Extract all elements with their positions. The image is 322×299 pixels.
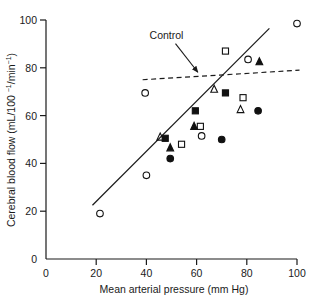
data-point-filled-circle	[218, 136, 225, 143]
data-point-filled-circle	[255, 108, 262, 115]
data-point-filled-triangle	[167, 144, 174, 151]
data-point-open-triangle	[237, 106, 244, 113]
y-tick-label-20: 20	[25, 205, 37, 217]
x-tick-label-60: 60	[191, 267, 203, 279]
data-point-open-circle	[143, 172, 150, 179]
y-tick-label-0: 0	[31, 253, 37, 265]
x-tick-label-80: 80	[241, 267, 253, 279]
x-tick-label-20: 20	[90, 267, 102, 279]
data-point-open-circle	[97, 210, 104, 217]
data-point-open-circle	[142, 90, 149, 97]
series-open-triangle	[157, 85, 244, 140]
scatter-plot-svg: 100 80 60 40 20 0 0 20 40 60 80 100 Mean…	[0, 0, 322, 299]
data-point-filled-circle	[167, 155, 174, 162]
regression-line	[92, 28, 269, 205]
y-axis-ticks	[40, 20, 46, 211]
x-axis-ticks	[96, 259, 297, 265]
data-point-filled-square	[192, 108, 198, 114]
data-point-filled-triangle	[256, 58, 263, 65]
trend-lines-layer	[92, 28, 299, 205]
control-label: Control	[150, 29, 184, 41]
series-filled-circle	[167, 108, 261, 162]
y-axis-tick-labels: 100 80 60 40 20 0	[19, 14, 37, 265]
series-filled-square	[162, 90, 228, 142]
data-point-open-square	[240, 95, 246, 101]
y-axis-title-close: )	[5, 53, 17, 57]
y-tick-label-100: 100	[19, 14, 37, 26]
x-tick-label-0: 0	[43, 267, 49, 279]
series-filled-triangle	[167, 58, 263, 151]
data-markers-layer	[97, 20, 301, 217]
chart-figure: 100 80 60 40 20 0 0 20 40 60 80 100 Mean…	[0, 0, 322, 299]
data-point-filled-triangle	[191, 122, 198, 129]
y-tick-label-60: 60	[25, 110, 37, 122]
axes	[46, 20, 297, 259]
data-point-open-circle	[294, 20, 301, 27]
data-point-open-circle	[198, 133, 205, 140]
data-point-open-circle	[245, 56, 252, 63]
y-axis-title-sup1: −1	[5, 84, 12, 92]
control-arrow	[175, 44, 197, 73]
x-axis-title: Mean arterial pressure (mm Hg)	[100, 283, 249, 295]
y-axis-title-sup2: −1	[5, 56, 12, 64]
data-point-open-square	[178, 141, 184, 147]
x-axis-tick-labels: 0 20 40 60 80 100	[43, 267, 306, 279]
series-open-circle	[97, 20, 301, 217]
y-tick-label-40: 40	[25, 157, 37, 169]
data-point-open-square	[222, 48, 228, 54]
data-point-filled-square	[222, 90, 228, 96]
x-tick-label-100: 100	[288, 267, 306, 279]
series-open-square	[178, 48, 246, 147]
y-axis-title-mid: /min	[5, 64, 17, 84]
y-axis-title-main: Cerebral blood flow (mL/100	[5, 92, 17, 227]
y-axis-title: Cerebral blood flow (mL/100 −1/min−1)	[5, 53, 17, 227]
data-point-open-square	[197, 123, 203, 129]
y-tick-label-80: 80	[25, 62, 37, 74]
control-line	[143, 70, 300, 80]
annotation-layer: Control	[150, 29, 198, 72]
x-tick-label-40: 40	[141, 267, 153, 279]
